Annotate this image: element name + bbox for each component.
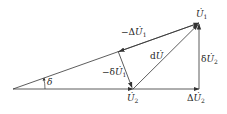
label-negdeltaU1: −δU̇1 (102, 66, 126, 78)
label-U2: U̇2 (127, 92, 139, 104)
label-U1: U̇1 (196, 8, 207, 20)
label-DeltaU2: ΔU̇2 (187, 92, 205, 104)
label-deltaU2: δU̇2 (201, 53, 218, 65)
phasor-diagram: δ U̇1 −ΔU̇1 dU̇ −δU̇1 δU̇2 U̇2 ΔU̇2 (0, 0, 227, 114)
label-negDeltaU1: −ΔU̇1 (121, 26, 146, 38)
label-dU: dU̇ (150, 50, 164, 61)
label-angle: δ (47, 77, 52, 87)
